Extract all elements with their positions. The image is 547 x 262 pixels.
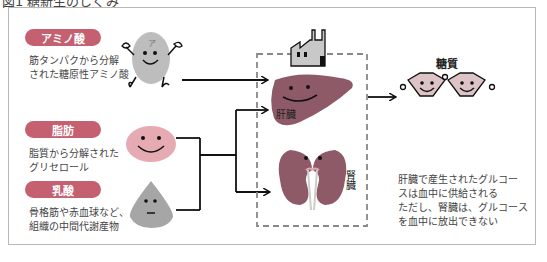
kidney-icon xyxy=(279,150,347,210)
sugar-molecule-icon xyxy=(401,73,495,96)
liver-label: 肝臓 xyxy=(276,106,296,121)
lactate-character-icon xyxy=(130,181,173,228)
note-line: スは血中に供給される xyxy=(398,187,528,201)
note-line: ただし、腎臓は、グルコース xyxy=(398,201,528,215)
fat-character-icon xyxy=(126,126,176,162)
note-line: を血中に放出できない xyxy=(398,215,528,229)
factory-icon xyxy=(291,30,325,66)
kidney-label: 腎臓 xyxy=(342,170,357,190)
note-text: 肝臓で産生されたグルコー スは血中に供給される ただし、腎臓は、グルコース を血… xyxy=(398,173,528,229)
amino-acid-character-icon: ア xyxy=(122,32,182,87)
svg-text:ア: ア xyxy=(148,39,156,48)
note-line: 肝臓で産生されたグルコー xyxy=(398,173,528,187)
sugar-label: 糖質 xyxy=(436,55,458,71)
